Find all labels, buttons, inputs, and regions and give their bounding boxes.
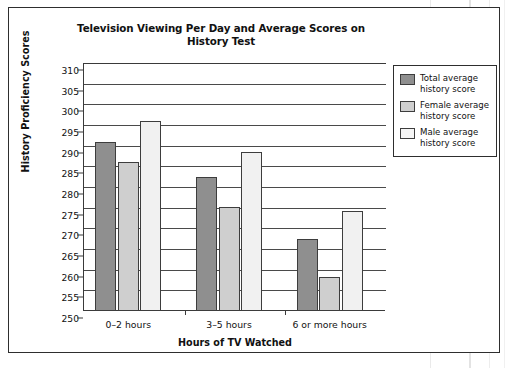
y-axis-tick-label: 290 [45,147,79,158]
y-axis-tick-label: 310 [45,65,79,76]
legend-swatch-female-icon [400,101,415,112]
bar-female-3 [319,277,340,311]
bar-female-2 [219,207,240,311]
bar-female-1 [118,162,139,311]
y-axis-tick-label: 280 [45,189,79,200]
legend-swatch-male-icon [400,128,415,139]
chart-figure-frame: Television Viewing Per Day and Average S… [8,7,500,353]
bar-total-2 [196,177,217,311]
y-axis-tick-label: 295 [45,127,79,138]
legend-item-female[interactable]: Female average history score [400,100,491,121]
y-axis-tick-label: 275 [45,209,79,220]
x-axis-title: Hours of TV Watched [84,337,386,348]
x-axis-tick-label: 3–5 hours [206,319,252,330]
y-axis-tick-label: 270 [45,230,79,241]
x-axis-category-separator [285,311,286,315]
y-axis-tick-label: 250 [45,313,79,324]
bar-total-3 [297,239,318,311]
chart-legend: Total average history score Female avera… [393,65,497,157]
bar-male-1 [140,121,161,311]
x-axis-category-separator [185,311,186,315]
x-axis-tick-label: 6 or more hours [292,319,367,330]
legend-label-male-line-1: Male average [420,127,478,137]
plot-area: 0–2 hours3–5 hours6 or more hours Hours … [83,63,385,311]
bars-layer [84,63,386,311]
y-axis-tick-label: 285 [45,168,79,179]
legend-label-male: Male average history score [420,127,478,148]
legend-label-female-line-1: Female average [420,100,489,110]
bar-male-3 [342,211,363,311]
y-axis-tick-label: 300 [45,106,79,117]
legend-item-total[interactable]: Total average history score [400,73,491,94]
y-axis-tick-label: 265 [45,251,79,262]
y-axis-tick-label: 305 [45,85,79,96]
legend-label-total-line-2: history score [420,84,475,94]
legend-label-female: Female average history score [420,100,489,121]
y-axis-tick-label: 255 [45,292,79,303]
legend-label-total: Total average history score [420,73,478,94]
legend-label-total-line-1: Total average [420,73,478,83]
legend-swatch-total-icon [400,74,415,85]
legend-label-male-line-2: history score [420,138,475,148]
legend-item-male[interactable]: Male average history score [400,127,491,148]
bar-total-1 [95,142,116,311]
y-axis-tick-label: 260 [45,271,79,282]
legend-label-female-line-2: history score [420,111,475,121]
x-axis-tick-label: 0–2 hours [106,319,152,330]
bar-male-2 [241,152,262,311]
y-axis-tick-mark [77,318,83,319]
